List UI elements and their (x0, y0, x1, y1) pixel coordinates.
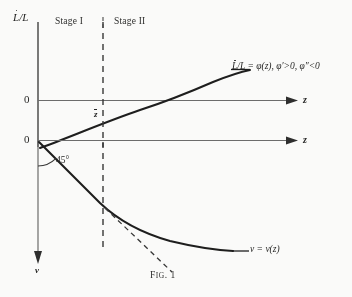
figure-caption-number: . 1 (165, 270, 176, 280)
growth-curve-equation-label: L/L = φ(z), φ′>0, φ″<0 (232, 62, 320, 72)
velocity-curve-equation-label: v = v(z) (250, 245, 280, 255)
top-vertical-axis-label-denominator: /L (19, 11, 28, 23)
top-vertical-axis-label: L/L (13, 12, 28, 23)
angle-45-label: 45° (56, 156, 69, 166)
bottom-horizontal-axis-label: z (303, 135, 307, 145)
velocity-tangent-dashed (105, 208, 172, 272)
top-vertical-axis-label-numerator: L (13, 12, 19, 23)
bottom-vertical-axis-arrowhead (34, 251, 42, 264)
figure-drawing (0, 0, 352, 297)
top-horizontal-axis-label: z (303, 95, 307, 105)
top-axis-origin-label: 0 (24, 94, 30, 105)
growth-curve-equation-lead: L (232, 62, 237, 72)
stage-i-label: Stage I (55, 17, 83, 27)
bottom-axis-origin-label: 0 (24, 134, 30, 145)
figure-caption-ig: IG (156, 271, 165, 280)
zbar-label: z (94, 110, 98, 119)
figure-caption: FIG. 1 (150, 271, 176, 281)
figure-container: L/L Stage I Stage II 0 0 z z z L/L = φ(z… (0, 0, 352, 297)
velocity-curve-equation-text: = v(z) (254, 244, 279, 254)
angle-arc-45deg (38, 159, 56, 166)
vertical-down-axis-label: v (35, 266, 39, 275)
growth-curve-equation-text: /L = φ(z), φ′>0, φ″<0 (237, 61, 320, 71)
growth-rate-curve (40, 70, 250, 148)
stage-ii-label: Stage II (114, 17, 145, 27)
top-horizontal-axis-arrowhead (286, 97, 298, 105)
bottom-horizontal-axis-arrowhead (286, 137, 298, 145)
